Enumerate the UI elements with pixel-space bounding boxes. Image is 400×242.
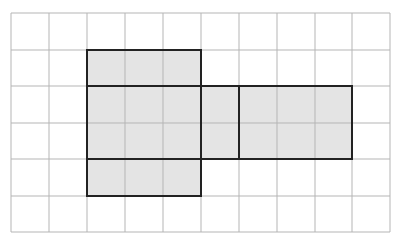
shaded-cell: [125, 86, 163, 123]
shaded-cell: [277, 123, 315, 159]
shaded-cell: [201, 123, 239, 159]
shaded-cell: [163, 123, 201, 159]
shaded-cell: [87, 86, 125, 123]
shaded-cell: [163, 86, 201, 123]
shaded-cell: [125, 159, 163, 196]
shaded-cell: [163, 50, 201, 86]
shaded-cell: [125, 50, 163, 86]
shaded-cell: [87, 50, 125, 86]
shaded-cell: [277, 86, 315, 123]
shaded-cell: [125, 123, 163, 159]
shaded-cell: [201, 86, 239, 123]
shaded-cell: [87, 159, 125, 196]
shaded-cell: [87, 123, 125, 159]
shaded-cell: [239, 123, 277, 159]
shaded-cell: [315, 86, 352, 123]
shaded-cell: [163, 159, 201, 196]
grid-net-diagram: [0, 0, 400, 242]
shaded-cell: [239, 86, 277, 123]
shaded-cell: [315, 123, 352, 159]
